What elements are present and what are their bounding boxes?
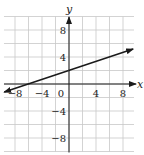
y-tick-label: 4 xyxy=(60,52,66,63)
y-tick-label: −8 xyxy=(51,133,66,144)
x-axis-label: x xyxy=(137,78,144,91)
y-tick-label: 8 xyxy=(60,25,66,36)
x-tick-label: 4 xyxy=(93,88,99,99)
coordinate-plane-chart: −8−404884−4−8 y x xyxy=(0,0,144,155)
x-tick-label: −4 xyxy=(35,88,50,99)
x-tick-label: 8 xyxy=(120,88,126,99)
line-segment-right xyxy=(69,49,133,70)
y-axis-label: y xyxy=(65,3,73,16)
y-tick-label: −4 xyxy=(51,106,66,117)
x-tick-label: 0 xyxy=(58,88,64,99)
